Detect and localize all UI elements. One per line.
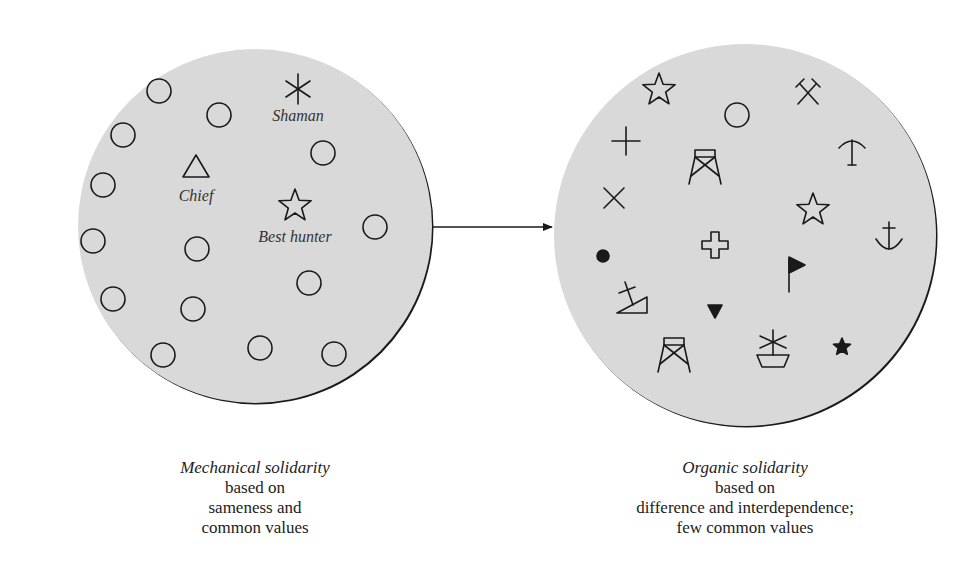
mechanical-solidarity-disc: ShamanChiefBest hunter [78, 49, 434, 405]
caption-line: common values [110, 518, 400, 538]
caption-title: Mechanical solidarity [110, 458, 400, 478]
disc [78, 49, 432, 403]
role-label: Best hunter [258, 228, 332, 245]
caption-line: based on [580, 478, 910, 498]
mechanical-solidarity-caption: Mechanical solidarity based on sameness … [110, 458, 400, 538]
dot-icon [597, 250, 609, 262]
caption-title: Organic solidarity [580, 458, 910, 478]
caption-line: based on [110, 478, 400, 498]
caption-line: few common values [580, 518, 910, 538]
organic-solidarity-disc [554, 44, 938, 428]
role-label: Shaman [272, 107, 324, 124]
role-label: Chief [179, 187, 216, 205]
organic-solidarity-caption: Organic solidarity based on difference a… [580, 458, 910, 538]
caption-line: difference and interdependence; [580, 498, 910, 518]
disc [554, 44, 936, 426]
caption-line: sameness and [110, 498, 400, 518]
